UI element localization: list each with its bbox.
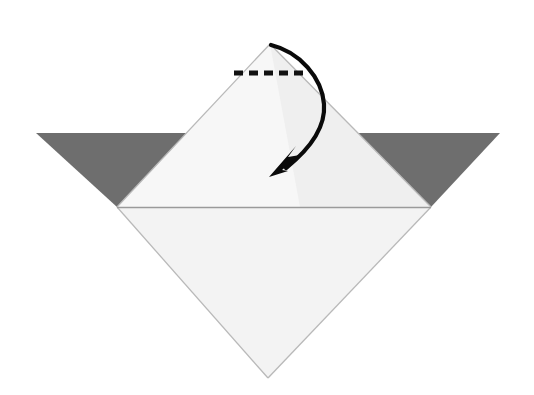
origami-diagram-root: Origami fold step diagram A square sheet…: [0, 0, 534, 395]
origami-diagram-svg: Origami fold step diagram A square sheet…: [0, 0, 534, 395]
